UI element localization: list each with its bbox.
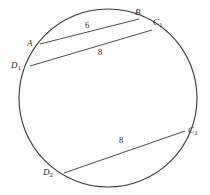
point-label-A: A — [27, 39, 33, 48]
point-subscript-C1: 1 — [159, 21, 162, 28]
point-letter-A: A — [27, 38, 33, 48]
point-label-D1: D1 — [11, 61, 21, 70]
chord-length-d2c2: 8 — [119, 136, 123, 145]
point-label-C2: C2 — [188, 126, 197, 135]
point-label-D2: D2 — [43, 168, 53, 177]
chord-d1c1 — [30, 30, 152, 66]
chord-length-d1c1: 8 — [98, 48, 102, 57]
main-circle — [19, 9, 197, 187]
chord-d2c2 — [64, 131, 185, 173]
point-subscript-D1: 1 — [18, 64, 21, 71]
point-letter-D1: D — [11, 60, 18, 70]
chord-length-ab: 6 — [85, 21, 89, 30]
chord-ab — [40, 19, 139, 44]
geometry-figure: A B C1 D1 C2 D2 6 8 8 — [0, 0, 210, 195]
point-subscript-D2: 2 — [50, 171, 53, 178]
point-label-B: B — [135, 8, 141, 17]
figure-canvas — [0, 0, 210, 195]
point-subscript-C2: 2 — [194, 129, 197, 136]
point-letter-D2: D — [43, 167, 50, 177]
point-letter-B: B — [135, 7, 141, 17]
point-label-C1: C1 — [153, 18, 162, 27]
